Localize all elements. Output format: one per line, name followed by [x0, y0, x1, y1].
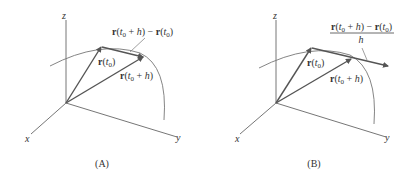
x-axis — [31, 103, 66, 134]
y-axis-label: y — [175, 132, 181, 143]
z-axis-label: z — [61, 10, 66, 21]
caption-a: (A) — [95, 158, 109, 170]
figure-b: z y x r(t0) r(t0 + h) r(t0 + h) − r(t0) … — [234, 10, 394, 170]
y-axis — [66, 103, 177, 137]
x-axis-label: x — [24, 133, 30, 144]
vector-r-t0 — [66, 47, 101, 103]
x-axis — [240, 103, 276, 134]
leader-line — [130, 38, 145, 52]
caption-b: (B) — [307, 158, 320, 170]
vector-r-t0 — [276, 48, 311, 103]
y-axis-label: y — [384, 132, 390, 143]
diagram-canvas: z y x r(t0) r(t0 + h) r(t0 + h) − r(t0) … — [0, 0, 408, 176]
figure-a: z y x r(t0) r(t0 + h) r(t0 + h) − r(t0) … — [24, 10, 181, 170]
y-axis — [276, 103, 386, 137]
label-difference: r(t0 + h) − r(t0) — [112, 26, 173, 39]
z-axis-label: z — [272, 10, 277, 21]
label-r-t0: r(t0) — [307, 57, 324, 70]
leader-line — [362, 48, 367, 60]
label-r-t0-plus-h: r(t0 + h) — [330, 73, 363, 86]
label-r-t0-plus-h: r(t0 + h) — [120, 70, 153, 83]
label-r-t0: r(t0) — [98, 56, 115, 69]
x-axis-label: x — [234, 133, 240, 144]
label-denominator: h — [359, 34, 364, 45]
label-numerator: r(t0 + h) − r(t0) — [331, 21, 392, 34]
